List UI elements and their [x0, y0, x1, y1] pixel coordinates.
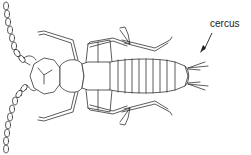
- cerci: [188, 62, 208, 90]
- mesothorax: [82, 62, 112, 90]
- cercus-label: cercus: [210, 19, 239, 29]
- head: [30, 58, 60, 94]
- antenna-lower: [4, 83, 37, 153]
- abdomen: [110, 59, 188, 93]
- pronotum: [60, 60, 84, 93]
- cercus-pointer-arrow: [200, 33, 212, 53]
- antenna-upper: [4, 2, 37, 65]
